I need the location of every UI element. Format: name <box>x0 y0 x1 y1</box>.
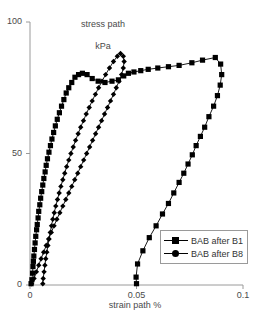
marker-diamond <box>103 72 108 77</box>
marker-diamond <box>53 203 58 208</box>
y-axis-title-line1: stress path <box>48 19 158 30</box>
x-tick-label: 0.05 <box>117 290 157 300</box>
marker-square <box>55 117 60 122</box>
legend-item-bab-after-b1: BAB after B1 <box>164 234 243 247</box>
marker-diamond <box>40 281 45 286</box>
marker-square <box>66 85 71 90</box>
marker-square <box>41 176 46 181</box>
marker-diamond <box>36 263 41 268</box>
marker-diamond <box>114 85 119 90</box>
marker-square <box>218 61 223 66</box>
marker-diamond <box>54 217 59 222</box>
marker-diamond <box>87 144 92 149</box>
marker-diamond <box>87 105 92 110</box>
marker-diamond <box>75 131 80 136</box>
marker-square <box>49 136 54 141</box>
stress-path-chart: stress path kPa strain path % BAB after … <box>0 0 266 321</box>
legend-label-b1: BAB after B1 <box>191 236 243 246</box>
marker-square <box>40 182 45 187</box>
y-axis-title: stress path kPa <box>48 8 158 63</box>
marker-diamond <box>102 111 107 116</box>
marker-square <box>166 64 171 69</box>
marker-diamond <box>71 144 76 149</box>
legend-marker-square-icon <box>164 235 188 246</box>
marker-square <box>33 240 38 245</box>
marker-square <box>138 68 143 73</box>
marker-diamond <box>72 177 77 182</box>
marker-diamond <box>93 131 98 136</box>
marker-square <box>177 180 182 185</box>
marker-diamond <box>42 263 47 268</box>
marker-diamond <box>41 276 46 281</box>
marker-diamond <box>78 125 83 130</box>
marker-square <box>166 201 171 206</box>
marker-diamond <box>99 118 104 123</box>
y-tick-label: 50 <box>0 148 22 158</box>
marker-diamond <box>41 269 46 274</box>
marker-square <box>198 134 203 139</box>
marker-diamond <box>57 210 62 215</box>
marker-square <box>215 93 220 98</box>
marker-diamond <box>63 197 68 202</box>
marker-square <box>146 67 151 72</box>
legend-label-b8: BAB after B8 <box>191 249 243 259</box>
marker-diamond <box>64 164 69 169</box>
marker-square <box>48 143 53 148</box>
marker-diamond <box>111 92 116 97</box>
y-tick-label: 100 <box>0 16 22 26</box>
marker-square <box>33 234 38 239</box>
marker-diamond <box>78 164 83 169</box>
marker-diamond <box>121 65 126 70</box>
marker-square <box>53 123 58 128</box>
legend-marker-diamond-icon <box>164 248 188 259</box>
marker-square <box>155 65 160 70</box>
marker-diamond <box>69 184 74 189</box>
marker-diamond <box>46 236 51 241</box>
marker-diamond <box>52 210 57 215</box>
marker-square <box>189 60 194 65</box>
x-tick-label: 0 <box>10 290 50 300</box>
marker-square <box>218 83 223 88</box>
marker-square <box>39 189 44 194</box>
legend: BAB after B1 BAB after B8 <box>160 230 248 264</box>
marker-diamond <box>58 184 63 189</box>
marker-diamond <box>38 256 43 261</box>
marker-square <box>126 71 131 76</box>
marker-square <box>219 72 224 77</box>
marker-diamond <box>81 157 86 162</box>
marker-square <box>211 104 216 109</box>
series-2 <box>29 51 127 287</box>
marker-square <box>90 76 95 81</box>
marker-diamond <box>84 111 89 116</box>
marker-square <box>57 110 62 115</box>
marker-square <box>160 211 165 216</box>
marker-square <box>61 97 66 102</box>
marker-square <box>185 161 190 166</box>
x-axis-title: strain path % <box>60 300 210 311</box>
marker-square <box>44 163 49 168</box>
marker-square <box>51 130 56 135</box>
marker-square <box>38 196 43 201</box>
marker-diamond <box>73 138 78 143</box>
marker-square <box>140 248 145 253</box>
marker-square <box>200 58 205 63</box>
marker-square <box>69 80 74 85</box>
marker-diamond <box>93 92 98 97</box>
marker-square <box>84 72 89 77</box>
marker-square <box>147 235 152 240</box>
marker-diamond <box>66 157 71 162</box>
marker-diamond <box>66 190 71 195</box>
marker-square <box>59 104 64 109</box>
marker-square <box>190 152 195 157</box>
x-tick-label: 0.1 <box>223 290 263 300</box>
marker-square <box>31 259 36 264</box>
marker-diamond <box>62 171 67 176</box>
marker-square <box>31 253 36 258</box>
marker-diamond <box>90 138 95 143</box>
marker-square <box>194 143 199 148</box>
marker-diamond <box>96 85 101 90</box>
legend-item-bab-after-b8: BAB after B8 <box>164 247 243 260</box>
marker-square <box>34 227 39 232</box>
marker-square <box>109 79 114 84</box>
marker-square <box>43 169 48 174</box>
